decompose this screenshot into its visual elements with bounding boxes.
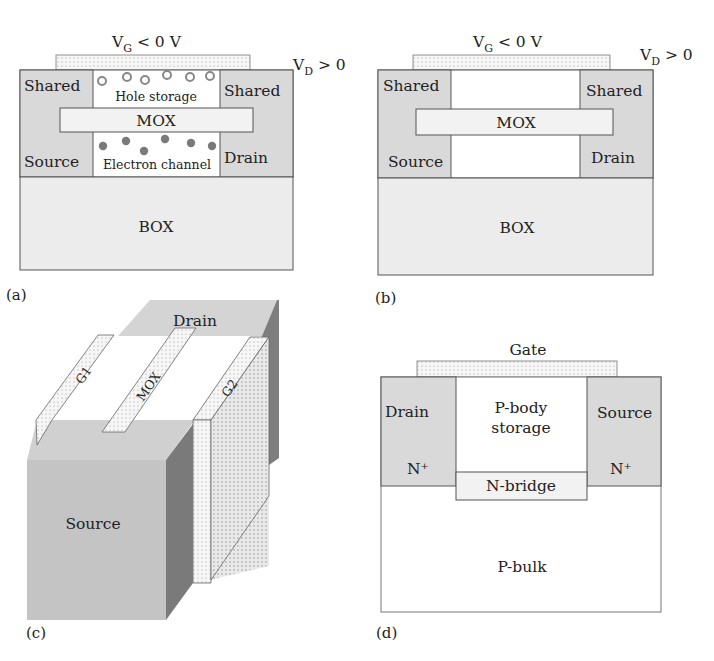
panel-a: VG < 0 V VD > 0 MOX Shared Source Shared… <box>6 33 346 304</box>
source-front-face <box>27 460 166 620</box>
source-shared-label: Shared <box>24 77 80 95</box>
source-label: Source <box>65 515 120 533</box>
panel-c: Drain G1 MOX G2 Source (c) <box>26 300 279 642</box>
gate-electrode <box>413 55 610 70</box>
source-label: Source <box>24 153 79 171</box>
drain-voltage-label: VD > 0 <box>639 46 693 68</box>
gate-g2-front <box>193 420 211 583</box>
drain-doping-label: N⁺ <box>407 460 429 478</box>
p-bulk-label: P-bulk <box>497 558 547 576</box>
hole-storage-label: Hole storage <box>115 89 197 104</box>
source-label: Source <box>597 404 652 422</box>
drain-shared-label: Shared <box>224 82 280 100</box>
mox-label: MOX <box>136 112 175 130</box>
figure-canvas: VG < 0 V VD > 0 MOX Shared Source Shared… <box>0 0 714 661</box>
panel-d: Gate Drain N⁺ Source N⁺ P-body storage N… <box>376 341 661 642</box>
drain-shared-label: Shared <box>586 82 642 100</box>
panel-a-caption: (a) <box>6 286 27 304</box>
mox-label: MOX <box>496 114 535 132</box>
p-body-label: P-body <box>495 399 548 417</box>
gate-electrode <box>56 55 250 70</box>
panel-c-caption: (c) <box>26 624 46 642</box>
source-shared-label: Shared <box>383 77 439 95</box>
n-bridge-label: N-bridge <box>486 477 556 495</box>
drain-voltage-label: VD > 0 <box>292 56 346 78</box>
drain-label: Drain <box>173 312 217 330</box>
drain-label: Drain <box>385 403 429 421</box>
panel-b: VG < 0 V VD > 0 MOX Shared Source Shared… <box>375 33 693 307</box>
gate-label: Gate <box>509 341 546 359</box>
electron-channel-label: Electron channel <box>103 157 211 172</box>
box-label: BOX <box>138 218 173 236</box>
source-label: Source <box>388 153 443 171</box>
drain-label: Drain <box>591 149 635 167</box>
gate-voltage-label: VG < 0 V <box>472 33 543 55</box>
panel-d-caption: (d) <box>376 624 397 642</box>
box-label: BOX <box>499 219 534 237</box>
panel-b-caption: (b) <box>375 289 396 307</box>
source-doping-label: N⁺ <box>610 460 632 478</box>
gate-voltage-label: VG < 0 V <box>111 33 182 55</box>
storage-label: storage <box>491 419 550 437</box>
drain-label: Drain <box>224 149 268 167</box>
gate-electrode <box>417 361 617 377</box>
